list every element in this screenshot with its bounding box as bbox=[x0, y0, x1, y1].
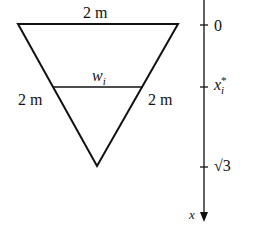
tick-label-0: 0 bbox=[214, 18, 222, 34]
axis-variable-label: x bbox=[189, 208, 195, 221]
tick-label-xi: x*i bbox=[214, 76, 227, 96]
tick-label-sqrt3: √3 bbox=[214, 158, 231, 174]
strip-width-label: wi bbox=[92, 68, 106, 87]
diagram-canvas bbox=[0, 0, 256, 228]
top-side-label: 2 m bbox=[83, 5, 107, 21]
axis-arrow-icon bbox=[200, 212, 208, 222]
left-side-label: 2 m bbox=[18, 92, 42, 108]
right-side-label: 2 m bbox=[148, 92, 172, 108]
